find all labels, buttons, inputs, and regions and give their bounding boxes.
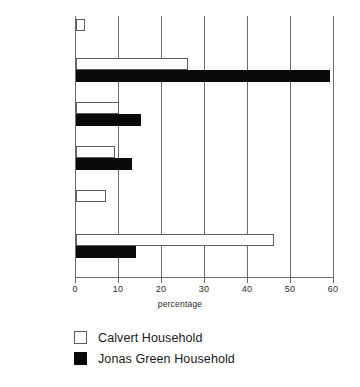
x-axis-tick-text-50: 50 bbox=[285, 284, 295, 294]
x-axis-tick-text-40: 40 bbox=[242, 284, 252, 294]
bar-calvert-ribs bbox=[76, 19, 85, 31]
plot-area: ribs feet hindquarters forequarters vert… bbox=[75, 16, 333, 278]
bar-calvert-head bbox=[76, 234, 274, 246]
gridline-50 bbox=[290, 16, 291, 278]
x-tick-50 bbox=[290, 278, 291, 283]
bar-calvert-vertebrae bbox=[76, 190, 106, 202]
bar-jonas-feet bbox=[76, 70, 330, 82]
gridline-60 bbox=[333, 16, 334, 278]
bar-jonas-head bbox=[76, 246, 136, 258]
legend-label-calvert: Calvert Household bbox=[98, 331, 203, 345]
legend-swatch-jonas-green-icon bbox=[74, 352, 87, 365]
x-axis-tick-text-30: 30 bbox=[199, 284, 209, 294]
legend-item-calvert: Calvert Household bbox=[74, 327, 235, 348]
bar-chart-figure: ribs feet hindquarters forequarters vert… bbox=[0, 0, 360, 387]
x-tick-20 bbox=[161, 278, 162, 283]
x-axis-tick-text-0: 0 bbox=[72, 284, 77, 294]
x-tick-30 bbox=[204, 278, 205, 283]
legend-label-jonas-green: Jonas Green Household bbox=[98, 352, 235, 366]
x-tick-40 bbox=[247, 278, 248, 283]
x-axis-tick-text-20: 20 bbox=[156, 284, 166, 294]
bar-jonas-forequarters bbox=[76, 158, 132, 170]
bar-calvert-feet bbox=[76, 58, 188, 70]
x-tick-0 bbox=[75, 278, 76, 283]
x-tick-60 bbox=[333, 278, 334, 283]
legend-swatch-calvert-icon bbox=[74, 331, 87, 344]
bar-jonas-hindquarters bbox=[76, 114, 141, 126]
x-axis-title: percentage bbox=[0, 299, 360, 309]
x-axis-tick-text-10: 10 bbox=[113, 284, 123, 294]
bar-calvert-forequarters bbox=[76, 146, 115, 158]
bar-calvert-hindquarters bbox=[76, 102, 119, 114]
x-tick-10 bbox=[118, 278, 119, 283]
x-axis-tick-text-60: 60 bbox=[328, 284, 338, 294]
chart-legend: Calvert Household Jonas Green Household bbox=[74, 327, 235, 369]
legend-item-jonas-green: Jonas Green Household bbox=[74, 348, 235, 369]
